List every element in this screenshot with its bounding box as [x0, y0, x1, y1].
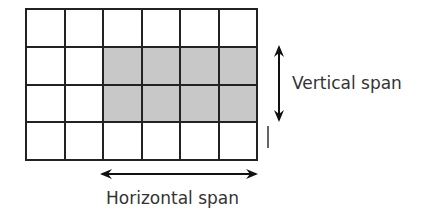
arrows-layer	[0, 0, 434, 217]
horizontal-span-label: Horizontal span	[106, 188, 239, 208]
vertical-span-label: Vertical span	[292, 73, 402, 93]
